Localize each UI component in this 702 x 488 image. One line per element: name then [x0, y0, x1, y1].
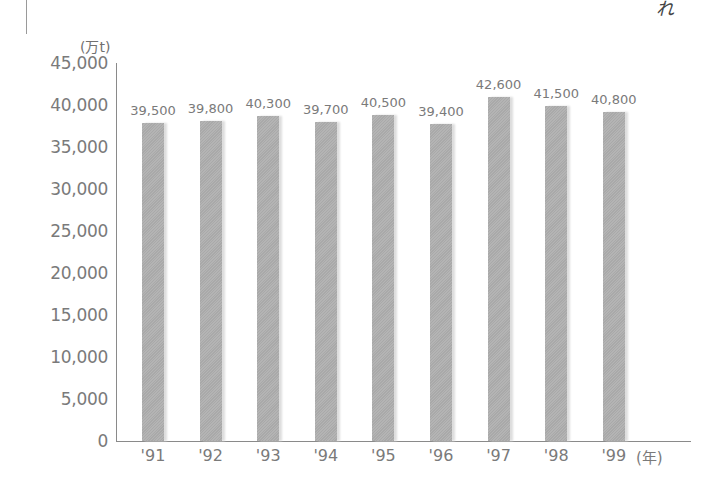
- bar-value-label: 39,700: [303, 102, 349, 117]
- x-tick-label: '94: [313, 446, 338, 465]
- bar-value-label: 39,800: [188, 101, 234, 116]
- x-tick-label: '98: [544, 446, 569, 465]
- bar: [545, 106, 567, 441]
- y-tick-label: 20,000: [50, 263, 108, 283]
- x-tick-label: '91: [141, 446, 166, 465]
- bar-value-label: 42,600: [476, 77, 522, 92]
- bar: [603, 112, 625, 441]
- bar: [142, 123, 164, 441]
- y-tick-label: 35,000: [50, 137, 108, 157]
- y-tick-label: 40,000: [50, 95, 108, 115]
- y-axis-line: [116, 63, 117, 441]
- x-axis-unit-label: (年): [636, 446, 663, 467]
- corner-handwritten-mark: れ: [656, 0, 674, 20]
- y-tick-label: 15,000: [50, 305, 108, 325]
- y-tick-label: 45,000: [50, 53, 108, 73]
- y-tick-label: 25,000: [50, 221, 108, 241]
- x-axis-line: [116, 441, 691, 442]
- x-tick-label: '96: [429, 446, 454, 465]
- bar: [257, 116, 279, 441]
- bar: [372, 115, 394, 441]
- y-tick-label: 30,000: [50, 179, 108, 199]
- x-tick-label: '97: [486, 446, 511, 465]
- bar-value-label: 41,500: [533, 86, 579, 101]
- bar: [488, 97, 510, 441]
- x-tick-label: '95: [371, 446, 396, 465]
- x-tick-label: '93: [256, 446, 281, 465]
- bar-value-label: 39,500: [130, 103, 176, 118]
- y-tick-label: 10,000: [50, 347, 108, 367]
- y-tick-label: 0: [97, 431, 108, 451]
- bar-value-label: 40,500: [361, 95, 407, 110]
- x-tick-label: '99: [601, 446, 626, 465]
- bar: [315, 122, 337, 441]
- page-edge-rule: [26, 0, 27, 34]
- bar-value-label: 40,300: [245, 96, 291, 111]
- bar: [430, 124, 452, 441]
- x-tick-label: '92: [198, 446, 223, 465]
- bar-value-label: 40,800: [591, 92, 637, 107]
- bar: [200, 121, 222, 441]
- bar-value-label: 39,400: [418, 104, 464, 119]
- y-tick-label: 5,000: [61, 389, 108, 409]
